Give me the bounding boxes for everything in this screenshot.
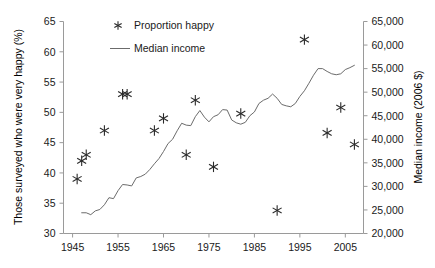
x-tick-label: 1985 — [243, 241, 267, 253]
scatter-marker — [100, 125, 109, 135]
left-axis-title: Those surveyed who were very happy (%) — [12, 29, 24, 225]
right-axis-title: Median income (2006 $) — [412, 70, 424, 183]
median-income-line — [82, 65, 355, 214]
scatter-marker — [191, 95, 200, 105]
x-tick-label: 1965 — [152, 241, 176, 253]
left-tick-label: 60 — [44, 46, 56, 58]
scatter-marker — [114, 21, 121, 29]
chart-legend: Proportion happy Median income — [110, 19, 215, 54]
scatter-marker — [323, 128, 332, 138]
left-tick-label: 35 — [44, 197, 56, 209]
left-tick-label: 50 — [44, 106, 56, 118]
left-axis-ticks: 3035404550556065 — [44, 15, 64, 239]
scatter-marker — [236, 108, 245, 118]
left-tick-label: 65 — [44, 15, 56, 27]
scatter-marker — [82, 150, 91, 160]
scatter-marker — [336, 102, 345, 112]
scatter-marker — [209, 162, 218, 172]
axes-group — [64, 22, 364, 234]
scatter-marker — [73, 174, 82, 184]
legend-label-proportion-happy: Proportion happy — [134, 19, 215, 31]
left-tick-label: 45 — [44, 136, 56, 148]
right-tick-label: 20,000 — [372, 227, 404, 239]
x-tick-label: 1995 — [288, 241, 312, 253]
scatter-marker — [273, 205, 282, 215]
left-tick-label: 40 — [44, 167, 56, 179]
right-tick-label: 25,000 — [372, 204, 404, 216]
scatter-marker — [123, 89, 132, 99]
scatter-marker — [118, 89, 127, 99]
right-tick-label: 65,000 — [372, 15, 404, 27]
right-tick-label: 55,000 — [372, 62, 404, 74]
legend-label-median-income: Median income — [134, 42, 205, 54]
right-axis-ticks: 20,00025,00030,00035,00040,00045,00050,0… — [364, 15, 404, 239]
right-tick-label: 60,000 — [372, 39, 404, 51]
scatter-marker — [150, 125, 159, 135]
scatter-marker — [159, 113, 168, 123]
x-tick-label: 2005 — [334, 241, 358, 253]
x-axis-ticks: 1945195519651975198519952005 — [61, 234, 357, 253]
proportion-happy-markers — [73, 34, 359, 215]
scatter-marker — [300, 34, 309, 44]
left-tick-label: 55 — [44, 76, 56, 88]
x-tick-label: 1955 — [106, 241, 130, 253]
right-tick-label: 30,000 — [372, 180, 404, 192]
x-tick-label: 1945 — [61, 241, 85, 253]
right-tick-label: 45,000 — [372, 110, 404, 122]
scatter-marker — [350, 139, 359, 149]
chart-container: 3035404550556065 20,00025,00030,00035,00… — [0, 0, 435, 268]
right-tick-label: 50,000 — [372, 86, 404, 98]
right-tick-label: 40,000 — [372, 133, 404, 145]
scatter-marker — [182, 150, 191, 160]
chart-svg: 3035404550556065 20,00025,00030,00035,00… — [0, 0, 435, 268]
x-tick-label: 1975 — [197, 241, 221, 253]
right-tick-label: 35,000 — [372, 157, 404, 169]
left-tick-label: 30 — [44, 227, 56, 239]
legend-asterisk-icon — [114, 21, 121, 29]
